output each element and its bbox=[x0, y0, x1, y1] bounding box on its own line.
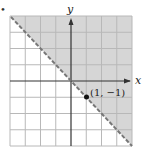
x-axis-label: x bbox=[135, 74, 142, 87]
y-axis-label: y bbox=[66, 3, 74, 16]
point-marker bbox=[84, 95, 89, 100]
point-label: (1, −1) bbox=[90, 87, 125, 98]
bullet-marker: • bbox=[0, 4, 6, 15]
inequality-graph: • x y (1, −1) bbox=[0, 0, 145, 156]
